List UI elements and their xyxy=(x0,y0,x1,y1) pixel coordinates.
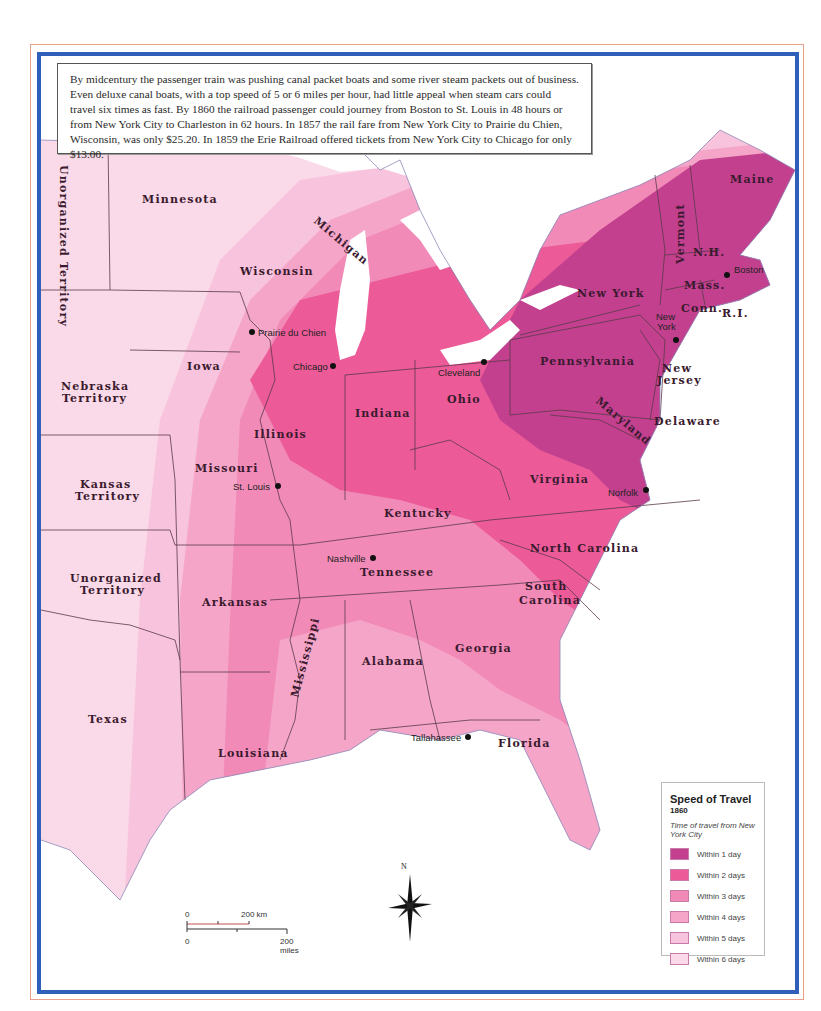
label-ohio: Ohio xyxy=(447,393,481,406)
city-dot-new-york xyxy=(673,337,679,343)
label-virginia: Virginia xyxy=(529,473,589,486)
legend-swatch-3-days xyxy=(670,890,689,902)
city-dot-chicago xyxy=(330,363,336,369)
label-delaware: Delaware xyxy=(654,415,721,428)
legend-item: Within 4 days xyxy=(670,911,756,923)
city-dot-tallahassee xyxy=(465,734,471,740)
scale-bar: 0 200 km 0 200 miles xyxy=(183,910,303,950)
label-new-york: New York xyxy=(577,287,645,300)
compass-star-icon xyxy=(385,870,435,942)
legend-subtitle: Time of travel from New York City xyxy=(670,821,756,839)
legend-item: Within 2 days xyxy=(670,869,756,881)
scale-km-end: 200 km xyxy=(241,910,267,919)
city-cleveland: Cleveland xyxy=(438,367,480,378)
label-rhode-island: R.I. xyxy=(722,307,749,320)
label-kentucky: Kentucky xyxy=(384,507,452,520)
label-vermont: Vermont xyxy=(674,203,687,265)
legend-item: Within 5 days xyxy=(670,932,756,944)
label-connecticut: Conn. xyxy=(681,302,723,315)
label-nebraska-2: Territory xyxy=(62,392,127,405)
legend-label: Within 5 days xyxy=(697,934,745,943)
legend-swatch-2-days xyxy=(670,869,689,881)
label-pennsylvania: Pennsylvania xyxy=(540,355,635,368)
city-prairie-du-chien: Prairie du Chien xyxy=(258,327,326,338)
label-south-carolina-1: South xyxy=(525,580,567,593)
legend-swatch-1-day xyxy=(670,848,689,860)
city-boston: Boston xyxy=(734,264,764,275)
legend-item: Within 3 days xyxy=(670,890,756,902)
label-indiana: Indiana xyxy=(355,407,411,420)
city-tallahassee: Tallahassee xyxy=(411,732,461,743)
city-dot-st-louis xyxy=(275,483,281,489)
label-minnesota: Minnesota xyxy=(142,193,218,206)
label-new-hampshire: N.H. xyxy=(693,246,725,259)
label-alabama: Alabama xyxy=(361,655,424,668)
city-nashville: Nashville xyxy=(327,553,366,564)
legend: Speed of Travel 1860 Time of travel from… xyxy=(661,782,765,956)
label-maine: Maine xyxy=(730,173,774,186)
city-dot-cleveland xyxy=(481,359,487,365)
label-new-jersey-2: Jersey xyxy=(656,374,702,387)
scale-km-start: 0 xyxy=(185,910,189,919)
legend-label: Within 3 days xyxy=(697,892,745,901)
label-florida: Florida xyxy=(498,737,551,750)
scale-lines xyxy=(183,920,303,936)
legend-label: Within 6 days xyxy=(697,955,745,964)
label-louisiana: Louisiana xyxy=(218,747,289,760)
label-north-carolina: North Carolina xyxy=(530,542,639,555)
city-st-louis: St. Louis xyxy=(233,481,270,492)
label-south-carolina-2: Carolina xyxy=(519,594,581,607)
label-illinois: Illinois xyxy=(254,428,307,441)
label-missouri: Missouri xyxy=(195,462,259,475)
city-chicago: Chicago xyxy=(293,361,328,372)
label-massachusetts: Mass. xyxy=(684,279,726,292)
label-georgia: Georgia xyxy=(455,642,512,655)
legend-label: Within 2 days xyxy=(697,871,745,880)
city-dot-nashville xyxy=(370,555,376,561)
label-kansas-2: Territory xyxy=(75,490,140,503)
legend-title: Speed of Travel xyxy=(670,793,756,805)
scale-mi-end: 200 miles xyxy=(280,937,303,955)
city-norfolk: Norfolk xyxy=(608,487,638,498)
legend-swatch-6-days xyxy=(670,953,689,965)
legend-label: Within 4 days xyxy=(697,913,745,922)
label-tennessee: Tennessee xyxy=(360,566,434,579)
label-unorganized-territory-north: Unorganized Territory xyxy=(57,165,70,327)
label-arkansas: Arkansas xyxy=(201,596,268,609)
label-unorganized-territory-south-2: Territory xyxy=(80,584,145,597)
city-new-york-2: York xyxy=(657,321,676,332)
city-dot-boston xyxy=(724,272,730,278)
scale-mi-start: 0 xyxy=(185,937,189,946)
label-texas: Texas xyxy=(88,713,128,726)
city-dot-norfolk xyxy=(643,487,649,493)
label-wisconsin: Wisconsin xyxy=(239,265,314,278)
legend-swatch-5-days xyxy=(670,932,689,944)
legend-item: Within 1 day xyxy=(670,848,756,860)
city-dot-prairie-du-chien xyxy=(249,329,255,335)
intro-text: By midcentury the passenger train was pu… xyxy=(70,73,579,160)
intro-text-box: By midcentury the passenger train was pu… xyxy=(57,63,592,154)
legend-swatch-4-days xyxy=(670,911,689,923)
legend-label: Within 1 day xyxy=(697,850,741,859)
legend-year: 1860 xyxy=(670,806,756,815)
legend-item: Within 6 days xyxy=(670,953,756,965)
label-iowa: Iowa xyxy=(187,360,221,373)
